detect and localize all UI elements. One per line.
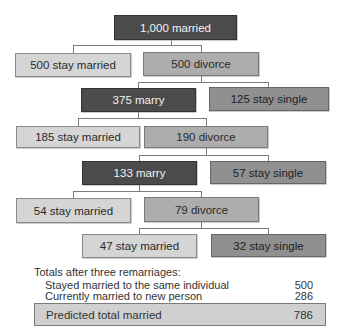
connector	[73, 45, 202, 46]
connector	[206, 118, 207, 126]
connector	[73, 191, 202, 192]
node-stay-single-6: 32 stay single	[211, 234, 326, 257]
node-divorce-5: 79 divorce	[144, 197, 259, 222]
totals-row-value: 286	[295, 291, 313, 302]
node-stay-married-5: 54 stay married	[16, 198, 131, 223]
node-root-married: 1,000 married	[114, 15, 237, 40]
node-stay-single-4: 57 stay single	[210, 161, 326, 184]
node-marry-2: 375 marry	[81, 88, 196, 112]
node-marry-4: 133 marry	[82, 161, 197, 185]
connector	[138, 82, 269, 83]
totals-row-label: Currently married to new person	[45, 291, 202, 302]
predicted-total-label: Predicted total married	[46, 309, 162, 321]
connector	[73, 45, 74, 53]
node-stay-married-6: 47 stay married	[82, 234, 197, 258]
connector	[78, 118, 207, 119]
node-divorce-3: 190 divorce	[144, 126, 268, 148]
totals-title: Totals after three remarriages:	[34, 266, 181, 278]
connector	[139, 155, 269, 156]
predicted-total-value: 786	[294, 309, 313, 321]
node-stay-single-2: 125 stay single	[209, 87, 329, 111]
connector	[206, 148, 207, 155]
connector	[73, 191, 74, 198]
predicted-total-box: Predicted total married 786	[34, 303, 326, 326]
connector	[201, 45, 202, 52]
node-stay-married-1: 500 stay married	[15, 53, 131, 77]
node-stay-married-3: 185 stay married	[16, 126, 140, 148]
totals-row-new-person: Currently married to new person 286	[45, 291, 313, 302]
connector	[78, 118, 79, 126]
connector	[139, 228, 269, 229]
node-divorce-1: 500 divorce	[143, 52, 259, 76]
